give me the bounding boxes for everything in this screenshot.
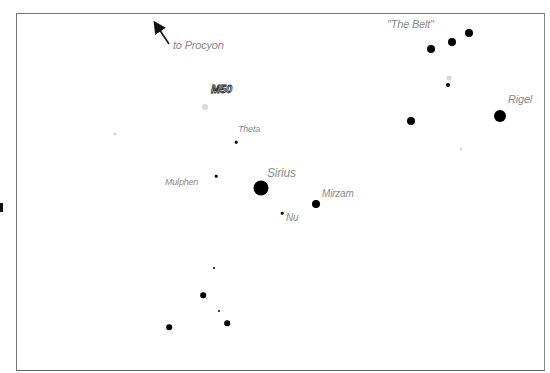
star-nu [281,212,284,215]
star-belt-1 [427,45,435,53]
star-mulphen [215,175,218,178]
star-rigel [494,110,506,122]
star-sirius [254,181,269,196]
star-m50 [202,104,208,110]
label-rigel: Rigel [508,93,532,105]
label-mirzam: Mirzam [322,188,354,199]
label-nu: Nu [286,212,298,223]
label-theta: Theta [238,124,260,134]
star-faint-right [460,148,463,151]
star-lower-3 [218,310,220,312]
star-faint-left [114,133,117,136]
label-belt: "The Belt" [387,18,434,30]
star-chart: "The Belt"to ProcyonM50RigelThetaSiriusM… [0,0,550,373]
star-belt-3 [465,29,473,37]
label-to-procyon: to Procyon [173,39,224,51]
star-belt-2 [448,38,456,46]
star-mid-right [407,117,415,125]
star-faint-near-belt [447,76,452,81]
star-small-below-belt [446,83,450,87]
star-lower-1 [213,267,215,269]
star-theta [235,141,238,144]
star-lower-2 [200,292,206,298]
star-lower-4 [224,320,230,326]
star-mirzam [312,200,320,208]
label-mulphen: Mulphen [165,177,198,187]
star-lower-5 [166,324,172,330]
arrow-icon [0,0,550,373]
label-m50: M50 [211,83,232,95]
label-sirius: Sirius [267,166,296,180]
